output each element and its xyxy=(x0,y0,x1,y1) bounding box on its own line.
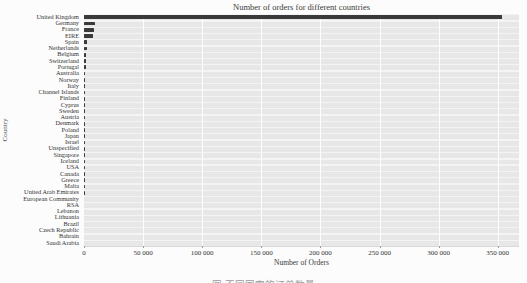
bar xyxy=(84,84,85,88)
x-tick-mark xyxy=(498,246,499,248)
bar xyxy=(84,28,94,32)
gridline xyxy=(261,14,262,246)
y-tick-label: Saudi Arabia xyxy=(0,240,81,247)
bar xyxy=(84,34,93,38)
gridline xyxy=(143,14,144,246)
orders-by-country-figure: Number of orders for different countries… xyxy=(0,0,527,283)
x-tick-mark xyxy=(320,246,321,248)
gridline xyxy=(202,14,203,246)
x-tick-mark xyxy=(202,246,203,248)
bar xyxy=(84,47,87,51)
bar xyxy=(84,103,85,107)
x-tick-mark xyxy=(84,246,85,248)
x-tick-mark xyxy=(143,246,144,248)
gridline xyxy=(498,14,499,246)
x-tick-label: 100 000 xyxy=(191,249,214,257)
bar xyxy=(84,97,85,101)
gridline xyxy=(320,14,321,246)
x-tick-mark xyxy=(261,246,262,248)
x-tick-label: 0 xyxy=(82,249,86,257)
bar xyxy=(84,40,87,44)
x-tick-label: 350 000 xyxy=(486,249,509,257)
bar xyxy=(84,59,86,63)
bar xyxy=(84,91,85,95)
x-tick-label: 300 000 xyxy=(427,249,450,257)
x-tick-label: 250 000 xyxy=(368,249,391,257)
bar xyxy=(84,22,95,26)
plot-area xyxy=(84,14,519,247)
x-tick-mark xyxy=(439,246,440,248)
figure-caption-clipped: 图 不同国家的订单数量 xyxy=(0,277,527,283)
x-tick-label: 50 000 xyxy=(133,249,152,257)
y-axis-tick-labels: United KingdomGermanyFranceEIRESpainNeth… xyxy=(0,14,81,246)
bar xyxy=(84,109,85,113)
y-axis-title: Country xyxy=(1,105,9,155)
x-axis-title: Number of Orders xyxy=(84,258,519,267)
x-tick-label: 200 000 xyxy=(309,249,332,257)
bar xyxy=(84,65,86,69)
gridline xyxy=(380,14,381,246)
x-tick-label: 150 000 xyxy=(250,249,273,257)
chart-title: Number of orders for different countries xyxy=(84,2,519,12)
bar xyxy=(84,72,85,76)
x-tick-mark xyxy=(380,246,381,248)
bar xyxy=(84,53,86,57)
bar xyxy=(84,15,502,19)
bar xyxy=(84,78,85,82)
gridline xyxy=(439,14,440,246)
